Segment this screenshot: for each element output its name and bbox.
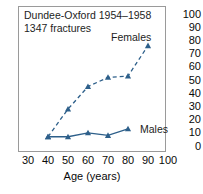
- x-tick-100: 100: [159, 155, 177, 166]
- x-tick-80: 80: [122, 155, 134, 166]
- y-axis: 1009080706050403020100: [170, 0, 203, 160]
- y-tick-50: 50: [189, 75, 201, 86]
- x-tick-60: 60: [82, 155, 94, 166]
- series-label-females: Females: [111, 31, 151, 43]
- annotation-line-1: Dundee-Oxford 1954–1958: [24, 9, 151, 22]
- marker-females-80: [125, 73, 131, 79]
- x-axis: 30405060708090100: [0, 155, 203, 169]
- x-tick-30: 30: [22, 155, 34, 166]
- x-tick-40: 40: [42, 155, 54, 166]
- fracture-incidence-chart: Dundee-Oxford 1954–1958 1347 fractures F…: [0, 0, 203, 194]
- x-tick-90: 90: [142, 155, 154, 166]
- y-tick-20: 20: [189, 114, 201, 125]
- series-label-males: Males: [140, 123, 168, 135]
- series-line-females: [48, 46, 148, 137]
- y-tick-30: 30: [189, 101, 201, 112]
- marker-females-90: [145, 43, 151, 49]
- y-tick-10: 10: [189, 127, 201, 138]
- x-axis-title: Age (years): [18, 170, 166, 182]
- marker-females-70: [105, 74, 111, 80]
- y-tick-60: 60: [189, 61, 201, 72]
- y-tick-90: 90: [189, 22, 201, 33]
- x-tick-50: 50: [62, 155, 74, 166]
- y-tick-40: 40: [189, 88, 201, 99]
- y-tick-80: 80: [189, 35, 201, 46]
- y-tick-70: 70: [189, 48, 201, 59]
- y-tick-100: 100: [183, 9, 201, 20]
- marker-males-80: [125, 126, 131, 132]
- y-tick-0: 0: [195, 141, 201, 152]
- x-tick-70: 70: [102, 155, 114, 166]
